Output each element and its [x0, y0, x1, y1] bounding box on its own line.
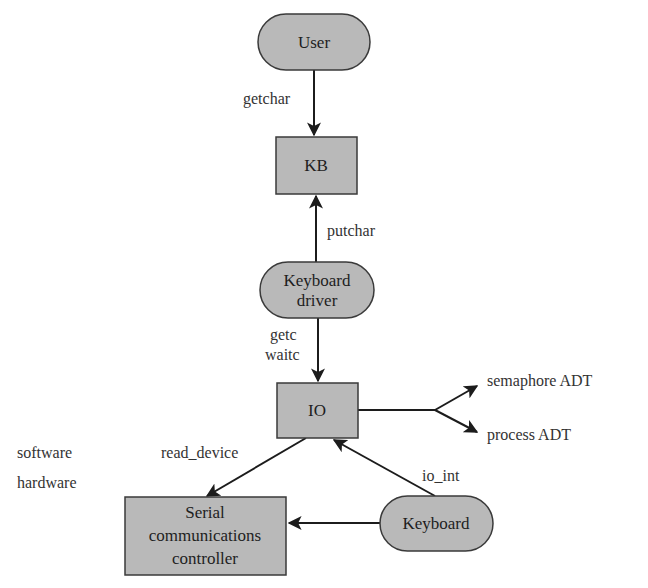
node-keyboard-driver: Keyboard driver — [260, 262, 374, 318]
label-getchar: getchar — [243, 90, 291, 108]
diagram-canvas: User KB Keyboard driver IO Serial commun… — [0, 0, 648, 588]
node-keyboard-driver-line2: driver — [297, 291, 338, 310]
node-user: User — [258, 14, 370, 70]
node-kb: KB — [276, 137, 357, 194]
label-process-adt: process ADT — [487, 426, 571, 444]
label-read-device: read_device — [161, 444, 238, 461]
edge-io-to-adts — [358, 386, 477, 432]
node-serial-line2: communications — [149, 526, 261, 545]
node-kb-label: KB — [304, 156, 328, 175]
label-semaphore-adt: semaphore ADT — [487, 372, 593, 390]
label-hardware: hardware — [17, 474, 77, 491]
node-keyboard: Keyboard — [380, 496, 493, 551]
node-serial-line1: Serial — [185, 503, 225, 522]
label-getc: getc — [270, 326, 297, 344]
node-keyboard-driver-line1: Keyboard — [283, 271, 351, 290]
node-serial-controller: Serial communications controller — [125, 497, 286, 575]
node-io: IO — [277, 383, 358, 438]
label-io-int: io_int — [422, 467, 460, 484]
label-putchar: putchar — [327, 222, 376, 240]
edge-keyboard-to-io — [334, 440, 435, 496]
node-user-label: User — [298, 33, 330, 52]
node-io-label: IO — [308, 401, 326, 420]
label-software: software — [17, 444, 72, 461]
label-waitc: waitc — [265, 346, 300, 363]
node-keyboard-label: Keyboard — [402, 514, 470, 533]
node-serial-line3: controller — [172, 549, 238, 568]
